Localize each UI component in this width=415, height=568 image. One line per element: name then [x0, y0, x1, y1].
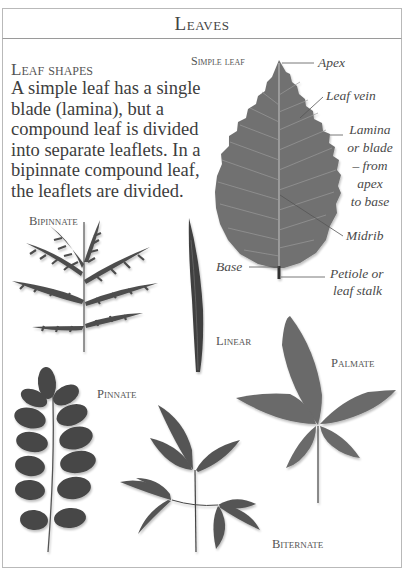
palmate-leaf-image [236, 316, 396, 503]
petiole-label-line2: leaf stalk [333, 283, 382, 299]
lamina-line: – from [342, 157, 398, 175]
apex-label: Apex [318, 55, 345, 71]
bipinnate-label: Bipinnate [29, 214, 78, 229]
biternate-leaf-image [120, 405, 260, 552]
petiole-label-line1: Petiole or [330, 266, 384, 282]
lamina-label: Lamina or blade – from apex to base [342, 121, 398, 211]
lamina-line: apex [342, 175, 398, 193]
leaf-vein-label: Leaf vein [326, 88, 376, 104]
lamina-line: or blade [342, 139, 398, 157]
pinnate-label: Pinnate [97, 387, 136, 402]
simple-leaf-label: Simple leaf [191, 54, 245, 69]
bipinnate-leaf-image [12, 220, 158, 352]
palmate-label: Palmate [331, 356, 374, 371]
lamina-line: to base [342, 193, 398, 211]
simple-leaf-image [215, 60, 341, 279]
pinnate-leaf-image [12, 366, 98, 552]
lamina-line: Lamina [342, 121, 398, 139]
linear-label: Linear [216, 334, 251, 349]
base-label: Base [216, 259, 242, 275]
biternate-label: Biternate [272, 537, 323, 552]
midrib-label: Midrib [346, 228, 384, 244]
linear-leaf-image [189, 218, 203, 372]
